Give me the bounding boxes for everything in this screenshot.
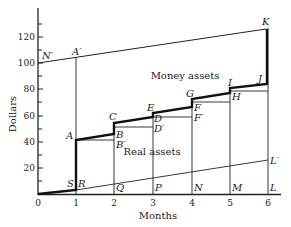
label-N-prime: N′ <box>41 50 54 61</box>
label-S: S <box>67 178 74 189</box>
y-tick-80: 80 <box>24 84 36 94</box>
label-F-prime: F′ <box>193 112 204 123</box>
label-L-prime: L′ <box>269 155 280 166</box>
label-J: J <box>256 73 263 84</box>
label-B-prime: B′ <box>115 139 126 150</box>
x-tick-5: 5 <box>227 198 233 208</box>
label-P: P <box>154 182 162 193</box>
label-C: C <box>109 111 117 122</box>
x-tick-1: 1 <box>73 198 79 208</box>
y-tick-20: 20 <box>24 163 36 173</box>
money-assets-label: Money assets <box>151 70 220 81</box>
label-A: A <box>65 130 73 141</box>
y-tick-40: 40 <box>24 137 36 147</box>
x-tick-4: 4 <box>189 198 195 208</box>
y-axis-label: Dollars <box>7 96 18 132</box>
chart: 120 100 80 60 40 20 0 1 2 3 4 5 6 Months… <box>0 0 291 227</box>
label-N: N <box>193 182 204 193</box>
real-assets-label: Real assets <box>123 146 180 157</box>
y-tick-60: 60 <box>24 111 36 121</box>
label-D-prime: D′ <box>153 123 165 134</box>
label-E: E <box>146 102 155 113</box>
label-K: K <box>261 16 270 27</box>
x-tick-3: 3 <box>150 198 156 208</box>
x-tick-6: 6 <box>265 198 271 208</box>
label-M: M <box>231 182 243 193</box>
x-tick-2: 2 <box>111 198 117 208</box>
label-R: R <box>77 178 86 189</box>
x-tick-0: 0 <box>35 198 41 208</box>
label-Q: Q <box>116 182 124 193</box>
label-L: L <box>269 182 277 193</box>
x-axis-label: Months <box>139 210 177 221</box>
label-G: G <box>186 88 194 99</box>
y-ticks <box>38 24 43 181</box>
y-tick-120: 120 <box>18 32 35 42</box>
label-H: H <box>231 91 241 102</box>
label-A-prime: A′ <box>71 46 82 57</box>
label-I: I <box>227 77 233 88</box>
y-tick-100: 100 <box>18 58 35 68</box>
